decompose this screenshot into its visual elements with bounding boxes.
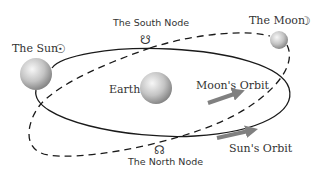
north-node-icon: ☊: [154, 143, 165, 157]
moons-orbit-label: Moon's Orbit: [196, 79, 270, 92]
lunar-nodes-diagram: The Sun ☉ The Moon ☽ Earth The South Nod…: [0, 0, 321, 178]
moon-sphere: [270, 31, 288, 49]
earth-sphere: [140, 72, 172, 104]
sun-sphere: [20, 58, 52, 90]
moon-symbol-icon: ☽: [300, 14, 311, 28]
sun-label: The Sun: [12, 42, 58, 55]
south-node-label: The South Node: [112, 17, 189, 28]
north-node-label: The North Node: [127, 156, 203, 167]
earth-label: Earth: [109, 83, 140, 96]
sun-symbol-icon: ☉: [55, 42, 66, 56]
south-node-icon: ☋: [140, 33, 151, 47]
moons-orbit-arrow: [208, 92, 240, 103]
moon-label: The Moon: [249, 14, 305, 27]
suns-orbit-label: Sun's Orbit: [229, 142, 293, 155]
